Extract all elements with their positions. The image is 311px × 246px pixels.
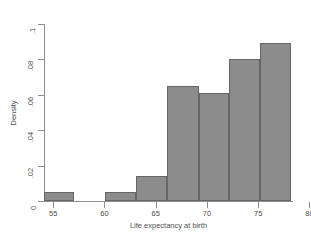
x-axis-tick-label: 55 <box>41 209 65 218</box>
histogram-bar <box>260 43 291 201</box>
y-axis-title-container: Density <box>8 24 20 202</box>
x-axis-tick-label: 65 <box>144 209 168 218</box>
plot-area <box>44 24 292 201</box>
x-axis-tick-label: 70 <box>195 209 219 218</box>
x-axis-tick <box>156 202 157 208</box>
histogram-bar <box>167 86 199 201</box>
histogram-bar <box>229 59 260 201</box>
x-axis-tick <box>104 202 105 208</box>
histogram-chart: 0.02.04.06.08.1 556065707580 Density Lif… <box>0 0 311 246</box>
x-axis-tick <box>53 202 54 208</box>
y-axis-tick <box>38 201 44 202</box>
x-axis-title: Life expectancy at birth <box>44 221 293 231</box>
bars-container <box>44 24 292 201</box>
x-axis-tick-label: 75 <box>246 209 270 218</box>
x-axis-tick <box>258 202 259 208</box>
histogram-bar <box>105 192 136 201</box>
x-axis-line <box>44 201 293 202</box>
histogram-bar <box>199 93 230 201</box>
histogram-bar <box>136 176 167 201</box>
x-axis-tick-label: 80 <box>297 209 311 218</box>
x-axis-tick-label: 60 <box>92 209 116 218</box>
x-axis-tick <box>207 202 208 208</box>
y-axis-title: Density <box>9 100 19 125</box>
x-axis-tick <box>309 202 310 208</box>
histogram-bar <box>44 192 74 201</box>
